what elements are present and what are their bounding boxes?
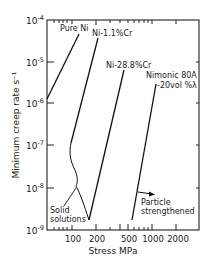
svg-text:2000: 2000: [167, 234, 189, 244]
svg-text:10-7: 10-7: [26, 139, 44, 151]
label-nimonic-80a: Nimonic 80A: [146, 71, 197, 80]
svg-text:100: 100: [65, 234, 81, 244]
particle-arrow: [138, 192, 155, 197]
svg-text:10-8: 10-8: [26, 182, 44, 194]
line-ni-1-1cr: [71, 38, 98, 143]
label-pure-ni: Pure Ni: [60, 24, 89, 33]
x-tick-labels: 100 200 500 1000 2000: [65, 234, 189, 244]
line-pure-ni: [47, 34, 79, 99]
svg-text:10-4: 10-4: [26, 14, 44, 26]
y-tick-labels: 10-4 10-5 10-6 10-7 10-8 10-9: [26, 14, 44, 236]
y-axis-title: Minimum creep rate s⁻¹: [11, 71, 21, 178]
svg-text:10-6: 10-6: [26, 97, 44, 109]
label-solutions: solutions: [50, 215, 86, 224]
svg-text:10-5: 10-5: [26, 56, 44, 68]
label-solid: Solid: [50, 206, 70, 215]
x-axis-ticks: [54, 224, 176, 230]
svg-text:500: 500: [121, 234, 137, 244]
creep-rate-chart: 10-4 10-5 10-6 10-7 10-8 10-9 100 200 50…: [0, 0, 211, 264]
x-axis-title: Stress MPa: [89, 246, 138, 256]
label-particle: Particle: [141, 198, 171, 207]
solid-solutions-pointer: [64, 188, 76, 206]
label-ni-28-8cr: Ni-28.8%Cr: [106, 61, 152, 70]
label-strengthened: strengthened: [141, 207, 195, 216]
line-ni-28-8cr: [89, 70, 124, 220]
y-axis-ticks: [47, 62, 54, 188]
solid-solutions-curve: [70, 143, 89, 220]
svg-text:200: 200: [89, 234, 105, 244]
label-nimonic-vol: -20vol %λ: [157, 81, 197, 90]
label-ni-1-1cr: Ni-1.1%Cr: [92, 29, 133, 38]
svg-text:1000: 1000: [142, 234, 164, 244]
svg-text:10-9: 10-9: [26, 224, 44, 236]
